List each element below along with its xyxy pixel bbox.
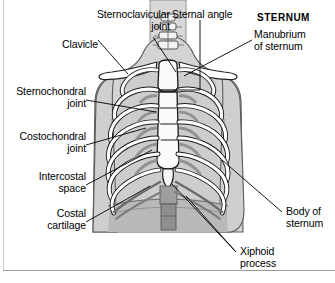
leader-clavicle: [98, 40, 128, 74]
anatomy-figure: Sternoclavicular joint Sternal angle STE…: [0, 0, 335, 283]
sub-xiphoid-block: [161, 204, 176, 230]
label-clavicle: Clavicle: [20, 38, 98, 50]
label-sternochondral-joint: Sternochondral joint: [4, 85, 86, 109]
label-sternoclavicular-joint: Sternoclavicular joint: [80, 8, 170, 32]
label-sternal-angle: Sternal angle: [172, 8, 233, 20]
label-manubrium-of-sternum: Manubrium of sternum: [254, 28, 306, 52]
sternum-body: [157, 92, 179, 169]
xiphoid-shadow-block: [160, 186, 177, 204]
label-sternum-heading: STERNUM: [257, 12, 310, 24]
label-xiphoid-process: Xiphoid process: [240, 245, 276, 269]
label-intercostal-space: Intercostal space: [8, 170, 86, 194]
label-body-of-sternum: Body of sternum: [286, 205, 323, 229]
manubrium: [158, 60, 178, 92]
label-costal-cartilage: Costal cartilage: [18, 207, 86, 231]
label-costochondral-joint: Costochondral joint: [4, 130, 86, 154]
